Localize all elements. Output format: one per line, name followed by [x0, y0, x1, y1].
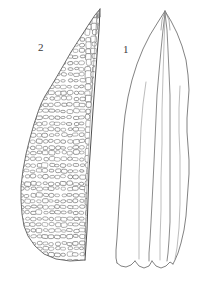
lamina-cell: [74, 217, 79, 220]
lamina-cell: [73, 127, 79, 131]
lamina-cell: [91, 245, 97, 251]
lamina-cell: [79, 72, 84, 76]
lamina-cell: [97, 150, 102, 156]
lamina-cell: [62, 194, 67, 197]
lamina-cell: [98, 251, 103, 256]
lamina-cell: [37, 31, 42, 34]
lamina-cell: [91, 108, 97, 114]
lamina-cell: [44, 157, 49, 161]
lamina-cell: [55, 182, 60, 186]
lamina-cell: [72, 56, 77, 59]
lamina-cell: [72, 133, 78, 136]
lamina-cell: [25, 55, 30, 59]
lamina-cell: [78, 91, 84, 94]
lamina-cell: [25, 14, 31, 17]
lamina-cell: [98, 66, 103, 71]
lamina-cell: [54, 139, 60, 143]
lamina-cell: [90, 239, 97, 247]
lamina-cell: [56, 68, 60, 70]
lamina-cell: [68, 175, 73, 179]
lamina-cell: [61, 187, 65, 190]
lamina-cell: [60, 234, 66, 238]
lamina-cell: [30, 140, 35, 144]
lamina-cell: [37, 91, 42, 94]
lamina-cell: [68, 247, 72, 250]
lamina-fold-left: [139, 82, 146, 259]
lamina-cell: [97, 199, 103, 204]
lamina-cell: [25, 115, 31, 119]
lamina-cell: [31, 205, 37, 208]
lamina-cell: [30, 86, 35, 89]
lamina-cell: [99, 162, 104, 168]
lamina-cell: [19, 242, 24, 245]
lamina-cell: [50, 97, 55, 101]
lamina-cell: [25, 206, 31, 209]
lamina-cell: [55, 246, 60, 250]
lamina-cell: [67, 157, 72, 161]
lamina-cell: [25, 199, 31, 204]
lamina-cell: [61, 128, 65, 131]
lamina-cell: [86, 42, 92, 49]
lamina-cell: [67, 109, 73, 113]
lamina-cell: [79, 228, 85, 232]
lamina-cell: [37, 133, 42, 137]
lamina-cell: [17, 151, 23, 154]
lamina-cell: [24, 24, 30, 28]
lamina-cell: [92, 127, 97, 132]
lamina-cell: [42, 222, 48, 226]
lamina-cell: [42, 133, 48, 137]
lamina-cell: [60, 13, 66, 16]
lamina-cell: [98, 204, 104, 210]
lamina-cell: [54, 20, 60, 23]
lamina-cell: [67, 37, 73, 40]
lamina-cell: [74, 73, 80, 77]
lamina-cell: [96, 59, 103, 67]
lamina-cell: [73, 223, 79, 226]
lamina-cell: [67, 164, 71, 167]
lamina-cell: [44, 50, 49, 53]
lamina-cell: [19, 30, 24, 34]
lamina-cell: [79, 193, 85, 197]
lamina-cell: [74, 247, 79, 250]
lamina-cell: [92, 185, 98, 191]
lamina-cell: [97, 84, 102, 89]
lamina-cell: [55, 205, 60, 209]
lamina-cell: [48, 247, 54, 251]
lamina-cell: [37, 200, 42, 203]
lamina-cell: [43, 260, 48, 263]
lamina-cell: [85, 193, 90, 199]
lamina-cell: [79, 170, 84, 173]
lamina-cell: [80, 97, 85, 101]
lamina-cell: [97, 193, 102, 198]
lamina-cell: [67, 242, 72, 245]
lamina-cell: [18, 97, 24, 101]
lamina-cell: [79, 43, 85, 47]
lamina-cell: [24, 128, 30, 132]
lamina-cell: [73, 194, 79, 198]
lamina-cell: [37, 235, 42, 238]
lamina-cell: [30, 109, 35, 112]
lamina-cell: [79, 139, 85, 143]
lamina-cell: [80, 158, 84, 161]
lamina-cell: [25, 61, 30, 65]
lamina-cell: [55, 175, 60, 178]
lamina-cell: [37, 122, 42, 126]
lamina-cell: [18, 19, 23, 22]
lamina-cell: [30, 174, 36, 178]
lamina-cell: [37, 217, 42, 220]
lamina-cell: [48, 19, 54, 24]
lamina-cell: [49, 260, 54, 263]
lamina-cell: [43, 199, 49, 203]
lamina-cell: [42, 174, 48, 179]
lamina-cell: [19, 26, 24, 29]
lamina-cell: [38, 175, 43, 179]
lamina-cell: [37, 86, 41, 89]
lamina-cell: [30, 60, 36, 64]
lamina-cell: [98, 246, 104, 252]
lamina-cell: [37, 253, 42, 256]
lamina-cell: [74, 85, 79, 88]
lamina-cell: [79, 103, 85, 107]
lamina-cell: [61, 140, 66, 144]
lamina-cell: [24, 68, 30, 71]
lamina-cell: [85, 84, 91, 90]
